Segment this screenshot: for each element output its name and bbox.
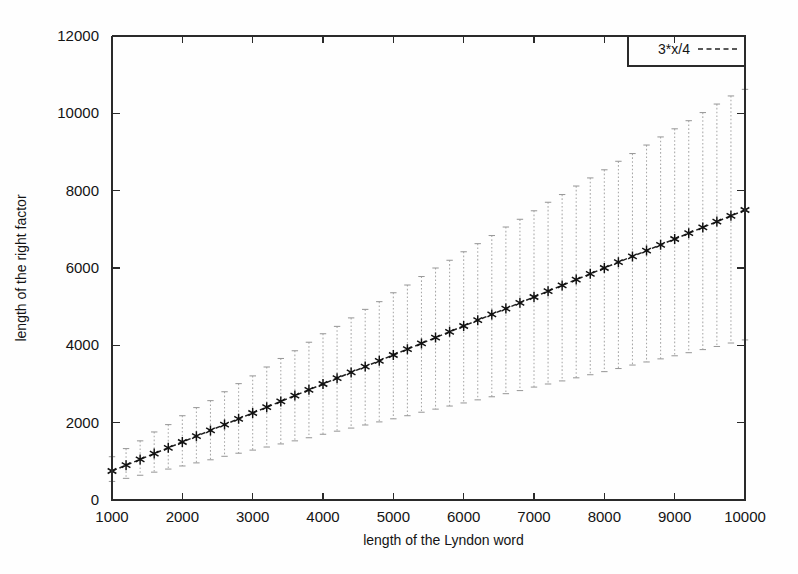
data-point-marker [178,437,187,447]
y-tick-label: 8000 [66,182,99,199]
data-point-marker [122,460,131,470]
data-point-marker [276,396,285,406]
data-point-marker [248,408,257,418]
x-tick-label: 7000 [517,508,550,525]
data-point-marker [220,420,229,430]
x-tick-label: 9000 [658,508,691,525]
x-tick-label: 2000 [166,508,199,525]
x-tick-label: 6000 [447,508,480,525]
y-axis-label: length of the right factor [13,194,29,341]
data-point-marker [333,373,342,383]
data-point-marker [684,228,693,238]
data-point-marker [305,385,314,395]
data-point-marker [502,304,511,314]
data-point-marker [431,333,440,343]
data-point-marker [727,211,736,221]
data-point-marker [164,443,173,453]
legend-label: 3*x/4 [658,41,690,57]
data-point-marker [614,257,623,267]
data-point-marker [361,362,370,372]
data-point-marker [192,431,201,441]
y-tick-label: 6000 [66,259,99,276]
data-point-marker [319,379,328,389]
error-bars-group [109,89,748,481]
y-tick-label: 0 [91,491,99,508]
data-point-marker [234,414,243,424]
data-markers-group [108,205,750,476]
figure-canvas: 1000200030004000500060007000800090001000… [0,0,798,574]
data-point-marker [473,315,482,325]
data-point-marker [389,350,398,360]
data-point-marker [628,251,637,261]
data-point-marker [670,234,679,244]
data-point-marker [530,292,539,302]
data-point-marker [600,263,609,273]
data-point-marker [375,356,384,366]
data-point-marker [150,449,159,459]
x-tick-label: 5000 [377,508,410,525]
axis-frame [112,36,745,500]
data-point-marker [417,338,426,348]
data-point-marker [558,280,567,290]
y-tick-label: 4000 [66,336,99,353]
data-point-marker [459,321,468,331]
x-axis-label: length of the Lyndon word [363,532,524,548]
data-point-marker [403,344,412,354]
data-point-marker [586,269,595,279]
data-point-marker [642,246,651,256]
data-point-marker [487,309,496,319]
data-point-marker [516,298,525,308]
data-point-marker [544,286,553,296]
data-point-marker [656,240,665,250]
x-tick-label: 3000 [236,508,269,525]
data-point-marker [445,327,454,337]
data-point-marker [347,367,356,377]
data-point-marker [262,402,271,412]
x-tick-label: 1000 [95,508,128,525]
data-point-marker [698,222,707,232]
y-tick-label: 2000 [66,414,99,431]
y-tick-label: 12000 [57,27,99,44]
x-tick-label: 10000 [724,508,766,525]
data-point-marker [572,275,581,285]
data-point-marker [206,425,215,435]
data-point-marker [136,454,145,464]
data-point-marker [291,391,300,401]
x-tick-label: 4000 [306,508,339,525]
data-point-marker [713,217,722,227]
y-tick-label: 10000 [57,104,99,121]
x-tick-label: 8000 [588,508,621,525]
scatter-errorbar-chart: 1000200030004000500060007000800090001000… [0,0,798,574]
